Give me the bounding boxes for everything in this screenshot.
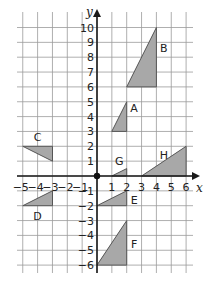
y-tick-label: −3 — [78, 215, 94, 228]
origin-dot — [94, 173, 100, 179]
y-tick-label: −5 — [78, 244, 94, 257]
shape-label-g: G — [115, 155, 124, 168]
shape-label-e: E — [131, 194, 138, 207]
y-tick-label: 5 — [87, 96, 94, 109]
x-tick-label: 3 — [138, 181, 145, 194]
y-axis-label: y — [85, 5, 93, 19]
y-tick-label: 8 — [87, 51, 94, 64]
y-tick-label: 3 — [87, 125, 94, 138]
shape-label-a: A — [130, 102, 138, 115]
y-tick-label: 10 — [80, 22, 94, 35]
x-tick-label: −3 — [42, 181, 58, 194]
y-tick-label: −4 — [78, 229, 94, 242]
y-tick-label: 2 — [87, 140, 94, 153]
y-axis-arrow-icon — [93, 9, 101, 17]
x-tick-label: −5 — [13, 181, 29, 194]
x-tick-label: 1 — [108, 181, 115, 194]
shape-label-c: C — [34, 131, 42, 144]
axes: x y — [17, 5, 203, 273]
x-tick-label: −4 — [27, 181, 43, 194]
y-tick-label: −6 — [78, 259, 94, 272]
y-tick-label: 6 — [87, 81, 94, 94]
y-tick-label: 4 — [87, 111, 94, 124]
y-tick-label: −2 — [78, 200, 94, 213]
y-tick-label: 7 — [87, 66, 94, 79]
x-axis-label: x — [196, 181, 203, 195]
x-tick-label: 4 — [153, 181, 160, 194]
shape-label-h: H — [160, 149, 168, 162]
shape-label-d: D — [33, 210, 41, 223]
coordinate-grid-diagram: x y −5−4−3−2−112345610987654321−1−2−3−4−… — [0, 0, 212, 284]
x-tick-label: −2 — [57, 181, 73, 194]
triangle-g — [112, 169, 127, 176]
x-tick-label: 6 — [183, 181, 190, 194]
y-tick-label: 1 — [87, 155, 94, 168]
shape-label-b: B — [160, 42, 168, 55]
y-tick-label: 9 — [87, 36, 94, 49]
x-tick-label: 2 — [123, 181, 130, 194]
shape-label-f: F — [131, 238, 137, 251]
x-tick-label: 5 — [168, 181, 175, 194]
x-axis-arrow-icon — [192, 172, 200, 180]
y-tick-label: −1 — [78, 185, 94, 198]
